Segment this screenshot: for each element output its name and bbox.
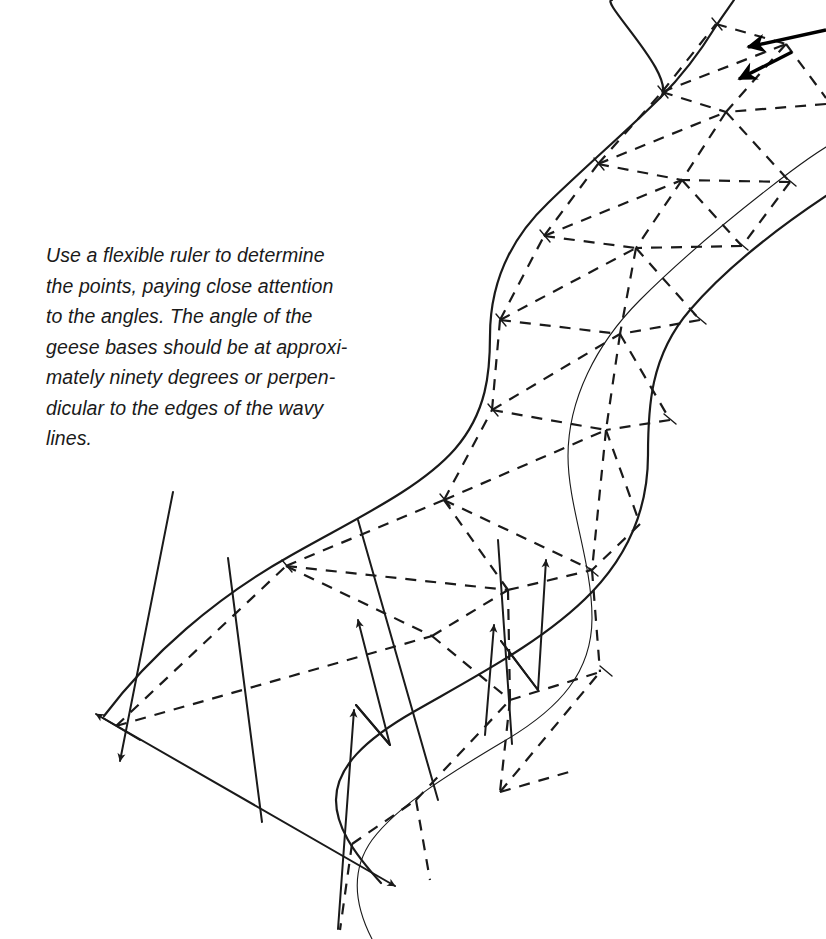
dashed-zig-3 (432, 590, 508, 636)
dashed-zig-16 (606, 420, 670, 430)
dashed-vert-4 (606, 334, 620, 430)
angle-line-4 (498, 540, 512, 744)
outer-edge-top-tail (660, 0, 734, 98)
dashed-vert-7 (682, 112, 726, 180)
caption-line-1: Use a flexible ruler to determine (46, 240, 376, 271)
dashed-zig-26 (662, 92, 726, 112)
wavy-band-diagram (0, 0, 826, 939)
dashed-zig-10 (492, 410, 606, 430)
dashed-zig-7 (508, 570, 592, 590)
dashed-base-2 (286, 566, 508, 590)
dashed-zig-35 (416, 700, 510, 800)
band-center-line (357, 147, 826, 939)
angle-line-6 (96, 714, 140, 740)
vee-arrow-1 (338, 710, 354, 929)
dashed-vert-8 (742, 182, 790, 246)
tick-11 (664, 414, 676, 424)
dashed-zig-32 (726, 104, 826, 112)
dashed-zig-36 (500, 672, 600, 792)
diagram-page: Use a flexible ruler to determine the po… (0, 0, 826, 939)
instruction-caption: Use a flexible ruler to determine the po… (46, 240, 376, 454)
dashed-vert-3 (592, 430, 606, 570)
thick-arrow-lower (739, 52, 792, 79)
caption-line-6: dicular to the edges of the wavy (46, 393, 376, 424)
dashed-zig-8 (510, 672, 600, 700)
dashed-base-6 (500, 248, 636, 320)
band-left-edge-extension (660, 0, 734, 98)
caption-line-7: lines. (46, 423, 376, 454)
center-guide-curve (357, 147, 826, 939)
dashed-zig-18 (544, 236, 636, 248)
caption-line-2: the points, paying close attention (46, 271, 376, 302)
angle-line-3 (358, 520, 438, 800)
perpendicular-angle-lines (96, 492, 512, 886)
dashed-zig-22 (598, 164, 682, 180)
caption-line-4: geese bases should be at approxi- (46, 332, 376, 363)
dashed-zig-9 (444, 410, 492, 500)
dashed-zig-11 (606, 430, 640, 524)
dashed-zig-23 (682, 180, 742, 246)
dashed-zig-37 (500, 770, 576, 792)
dashed-vert-5 (620, 248, 636, 334)
dashed-zig-25 (598, 92, 662, 164)
thick-callout-arrows (739, 30, 826, 79)
dashed-vert-9 (726, 44, 786, 112)
angle-line-2 (228, 558, 262, 822)
dashed-base-4 (444, 430, 606, 500)
caption-line-5: mately ninety degrees or perpen- (46, 362, 376, 393)
geese-direction-arrows (338, 560, 546, 929)
dashed-zig-34 (416, 800, 430, 880)
dashed-zig-19 (636, 248, 700, 320)
caption-line-3: to the angles. The angle of the (46, 301, 376, 332)
dashed-zig-24 (636, 246, 742, 248)
dashed-zig-27 (726, 112, 790, 182)
dashed-base-5 (492, 334, 620, 410)
dashed-zig-5 (286, 500, 444, 566)
tick-10 (600, 666, 612, 676)
geese-seam-lines (116, 24, 826, 930)
dashed-zig-33 (352, 800, 416, 844)
dashed-vert-11 (500, 700, 510, 792)
dashed-zig-4 (432, 636, 510, 700)
dashed-zig-20 (620, 320, 700, 334)
dashed-zig-14 (500, 320, 620, 334)
tick-12 (694, 314, 706, 324)
dashed-zig-13 (492, 320, 500, 410)
dashed-zig-6 (444, 500, 592, 570)
dashed-zig-28 (682, 180, 790, 182)
dashed-zig-15 (620, 334, 670, 420)
angle-line-1 (120, 492, 173, 761)
